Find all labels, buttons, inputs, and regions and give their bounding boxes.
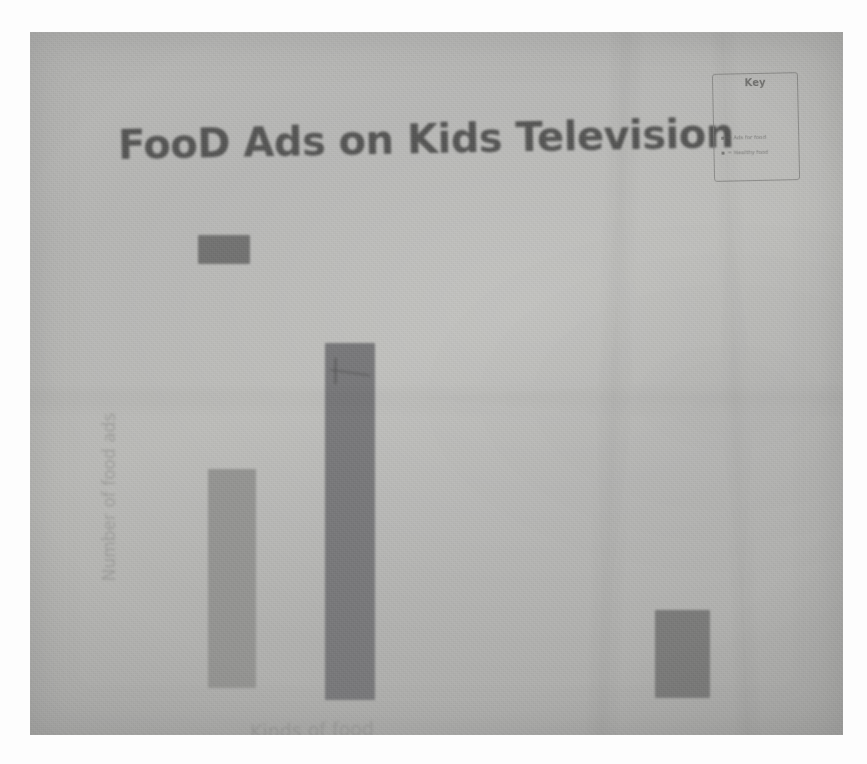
key-entry-1: = Ads for food [721,133,793,142]
bar-3 [655,610,710,698]
y-axis-label: Number of food ads [99,382,119,612]
legend-color-swatch [198,235,250,264]
chart-title: FooD Ads on Kids Television [118,115,639,165]
key-entry-2-label: = Healthy food [727,149,768,156]
key-box-heading: Key [713,76,797,89]
bar-1 [208,469,256,688]
key-entry-1-label: = Ads for food [727,134,766,141]
handdrawn-poster: FooD Ads on Kids Television Number of fo… [30,32,843,735]
bar-2 [325,343,375,700]
key-marker-icon [722,152,725,155]
photograph: FooD Ads on Kids Television Number of fo… [0,0,867,764]
key-entry-2: = Healthy food [721,148,793,157]
key-marker-icon [721,137,724,140]
bar-2-scribble-mark [330,358,370,384]
key-box: Key = Ads for food = Healthy food [712,72,800,182]
x-axis-label: Kinds of food [182,716,442,735]
